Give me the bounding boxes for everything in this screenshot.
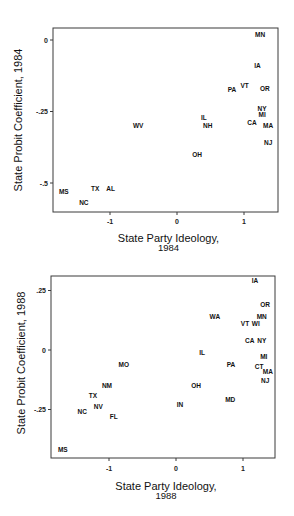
point-label-nh: NH [203, 122, 213, 129]
point-label-ms: MS [59, 188, 69, 195]
point-label-wi: WI [252, 320, 260, 327]
point-label-il: IL [201, 114, 207, 121]
chart-svg-1988: .250-.25-101IAORMNWAVTWICANYILMIPACTMANJ… [0, 258, 294, 508]
y-tick-label: .25 [36, 287, 46, 294]
point-label-vt: VT [241, 82, 249, 89]
point-label-tx: TX [91, 185, 100, 192]
x-tick-label: -1 [107, 218, 113, 225]
point-label-mi: MI [260, 353, 267, 360]
point-label-ma: MA [263, 122, 273, 129]
plot-frame [51, 276, 275, 458]
scatter-plot-1988: .250-.25-101IAORMNWAVTWICANYILMIPACTMANJ… [0, 258, 294, 508]
point-label-nc: NC [78, 408, 88, 415]
x-tick-label: 0 [174, 465, 178, 472]
x-tick-label: 1 [241, 465, 245, 472]
point-label-mn: MN [255, 31, 265, 38]
y-tick-label: -.25 [34, 406, 46, 413]
point-label-or: OR [260, 301, 270, 308]
point-label-fl: FL [110, 413, 118, 420]
point-label-in: IN [177, 401, 184, 408]
y-tick-label: -.5 [40, 180, 48, 187]
x-tick-label: -1 [106, 465, 112, 472]
point-label-ca: CA [247, 119, 257, 126]
y-axis-title: State Probit Coefficient, 1984 [12, 49, 24, 192]
point-label-ny: NY [257, 337, 267, 344]
point-label-ma: MA [263, 368, 273, 375]
point-label-ia: IA [252, 277, 259, 284]
point-label-vt: VT [241, 320, 249, 327]
point-label-mn: MN [257, 313, 267, 320]
point-label-oh: OH [191, 382, 201, 389]
y-tick-label: 0 [44, 37, 48, 44]
point-label-md: MD [225, 396, 235, 403]
x-axis-title-year: 1984 [158, 242, 179, 253]
y-axis-title: State Probit Coefficient, 1988 [15, 292, 27, 435]
y-tick-label: -.25 [36, 108, 48, 115]
plot-frame [53, 28, 278, 212]
point-label-mo: MO [118, 361, 128, 368]
x-tick-label: 1 [242, 218, 246, 225]
chart-svg-1984: 0-.25-.5-101MNIAORVTPANYMICAMANJILNHWVOH… [0, 0, 294, 258]
point-label-ms: MS [58, 446, 68, 453]
point-label-pa: PA [228, 86, 237, 93]
point-label-or: OR [260, 85, 270, 92]
point-label-pa: PA [227, 361, 236, 368]
point-label-ca: CA [245, 337, 255, 344]
point-label-nm: NM [102, 382, 112, 389]
point-label-wa: WA [210, 313, 221, 320]
faint-footer-text [0, 508, 294, 516]
point-label-wv: WV [133, 122, 144, 129]
y-tick-label: 0 [42, 347, 46, 354]
point-label-oh: OH [192, 151, 202, 158]
point-label-al: AL [106, 185, 115, 192]
point-label-nj: NJ [264, 139, 273, 146]
point-label-il: IL [199, 349, 205, 356]
scatter-plot-1984: 0-.25-.5-101MNIAORVTPANYMICAMANJILNHWVOH… [0, 0, 294, 258]
point-label-nc: NC [79, 199, 89, 206]
x-axis-title-year: 1988 [155, 490, 176, 501]
point-label-nv: NV [94, 403, 104, 410]
point-label-tx: TX [89, 392, 98, 399]
x-tick-label: 0 [175, 218, 179, 225]
point-label-nj: NJ [261, 377, 270, 384]
point-label-mi: MI [258, 111, 265, 118]
point-label-ia: IA [254, 62, 261, 69]
